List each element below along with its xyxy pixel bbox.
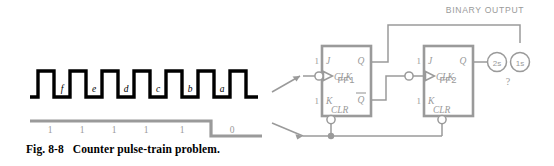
ff1-qbar-to-ff2-clk-wire xyxy=(371,76,405,100)
ff1-clr-inversion-bubble xyxy=(327,116,335,124)
clock-connection-arrow xyxy=(272,76,300,92)
pulse-label-a: a xyxy=(220,84,225,94)
ff2-clk-edge-triangle xyxy=(426,72,435,81)
unknown-output-question-mark: ? xyxy=(506,76,511,87)
ff1-clr-label: CLR xyxy=(331,105,349,115)
ff2-j-label: J xyxy=(428,56,433,66)
figure-caption: Fig. 8-8Counter pulse-train problem. xyxy=(26,143,220,155)
ff2-clr-inversion-bubble xyxy=(438,116,446,124)
ff1-q-label: Q xyxy=(358,56,365,66)
clear-level-0: 0 xyxy=(230,125,235,135)
pulse-label-c: c xyxy=(156,84,161,94)
clear-level-1-a: 1 xyxy=(48,125,53,135)
figure-caption-text: Counter pulse-train problem. xyxy=(73,143,220,155)
ff1-clk-edge-triangle xyxy=(324,72,333,81)
figure-8-8: f e d c b a 1 1 1 1 1 0 xyxy=(0,0,554,166)
pulse-label-d: d xyxy=(124,84,129,94)
binary-output-bits: 2s 1s xyxy=(488,53,530,72)
ff1-clk-inversion-bubble xyxy=(315,72,323,80)
ff1-q-to-ones-wire xyxy=(371,25,520,62)
ff1-j-input-value: 1 xyxy=(315,56,320,66)
ff2-clk-inversion-bubble xyxy=(405,72,413,80)
clear-level-1-b: 1 xyxy=(80,125,85,135)
ff2-clr-label: CLR xyxy=(433,105,451,115)
ff1-qbar-label: Q xyxy=(358,95,365,105)
ff2-q-label: Q xyxy=(460,56,467,66)
pulse-label-b: b xyxy=(188,84,193,94)
ff1-k-input-value: 1 xyxy=(315,96,320,106)
ones-place-output-label: 1s xyxy=(516,59,524,68)
figure-caption-number: Fig. 8-8 xyxy=(26,143,64,155)
clear-level-1-e: 1 xyxy=(180,125,185,135)
ff2-j-input-value: 1 xyxy=(417,56,422,66)
ff1-j-label: J xyxy=(326,56,331,66)
clear-waveform-labels: 1 1 1 1 1 0 xyxy=(48,125,235,135)
pulse-label-f: f xyxy=(61,84,65,94)
clr-bus-junction-dot xyxy=(328,133,334,139)
ff1-name-label: FF1 xyxy=(338,74,355,85)
clear-level-1-c: 1 xyxy=(112,125,117,135)
clear-level-1-d: 1 xyxy=(144,125,149,135)
ff2-k-input-value: 1 xyxy=(417,96,422,106)
twos-place-output-label: 2s xyxy=(493,59,501,68)
pulse-label-e: e xyxy=(92,84,96,94)
flipflop-ff2[interactable]: J K CLK CLR Q FF2 1 1 xyxy=(405,46,473,124)
flipflop-ff1[interactable]: J K CLK CLR Q Q FF1 1 1 xyxy=(315,46,372,124)
ff2-name-label: FF2 xyxy=(440,74,457,85)
binary-output-label: BINARY OUTPUT xyxy=(446,5,525,15)
clear-connection-arrow xyxy=(272,123,303,139)
